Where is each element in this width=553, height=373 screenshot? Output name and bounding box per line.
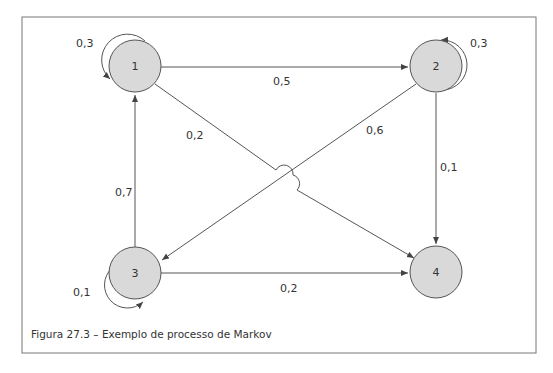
label-2-2: 0,3 — [470, 37, 488, 50]
node-2-label: 2 — [433, 60, 440, 73]
label-2-3: 0,6 — [366, 124, 384, 137]
node-3: 3 — [109, 247, 161, 299]
label-3-1: 0,7 — [115, 186, 133, 199]
label-1-4: 0,2 — [186, 129, 204, 142]
edge-1-to-4 — [155, 84, 414, 258]
node-1: 1 — [109, 40, 161, 92]
figure-caption: Figura 27.3 – Exemplo de processo de Mar… — [31, 328, 272, 340]
node-4: 4 — [410, 246, 462, 298]
markov-diagram: 1 2 3 4 0,3 0,5 0,2 0,3 0,6 0,1 0,7 0,1 … — [0, 0, 553, 373]
node-2: 2 — [410, 40, 462, 92]
label-1-1: 0,3 — [76, 37, 94, 50]
label-3-4: 0,2 — [280, 282, 298, 295]
edge-2-to-3 — [162, 84, 416, 260]
label-3-3: 0,1 — [73, 286, 91, 299]
node-4-label: 4 — [433, 266, 440, 279]
node-3-label: 3 — [132, 267, 139, 280]
node-1-label: 1 — [132, 60, 139, 73]
label-1-2: 0,5 — [273, 75, 291, 88]
label-2-4: 0,1 — [440, 161, 458, 174]
